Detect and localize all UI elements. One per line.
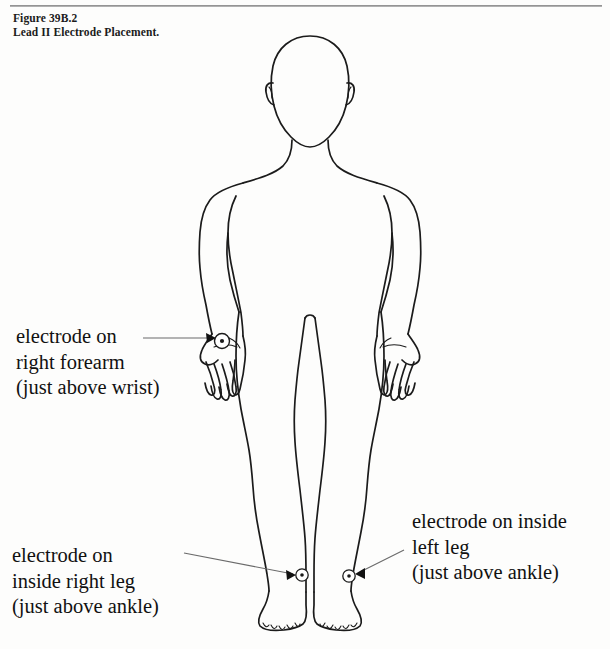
toe-right-5 bbox=[320, 623, 325, 627]
annotation-left-leg-line1: electrode on inside bbox=[412, 509, 567, 535]
leg-right-outer bbox=[351, 312, 384, 591]
toe-right-3 bbox=[335, 626, 341, 630]
hand-right-crease-1 bbox=[383, 345, 406, 347]
toe-left-1 bbox=[263, 623, 269, 627]
annotation-left-leg: electrode on inside left leg (just above… bbox=[412, 509, 567, 586]
head-outline bbox=[271, 36, 349, 147]
leg-left-inner bbox=[294, 318, 306, 592]
annotation-right-leg-line3: (just above ankle) bbox=[12, 594, 159, 620]
right-forearm-electrode bbox=[215, 334, 230, 349]
arm-right-inner bbox=[377, 196, 392, 336]
leg-right-inner bbox=[314, 318, 326, 592]
toe-left-2 bbox=[271, 625, 277, 629]
foot-right bbox=[314, 591, 362, 630]
arm-left-outer bbox=[199, 183, 243, 334]
toe-left-5 bbox=[295, 623, 300, 627]
arm-left-inner bbox=[228, 196, 243, 336]
toe-right-2 bbox=[343, 625, 349, 629]
arm-right-outer bbox=[377, 183, 421, 334]
annotation-right-forearm-line3: (just above wrist) bbox=[16, 375, 159, 401]
toe-right-1 bbox=[351, 623, 357, 627]
left-leg-electrode bbox=[343, 570, 355, 582]
toe-left-3 bbox=[279, 626, 285, 630]
annotation-right-leg-line2: inside right leg bbox=[12, 569, 159, 595]
body-outline bbox=[199, 36, 421, 630]
annotation-right-forearm-line2: right forearm bbox=[16, 350, 159, 376]
figure-page: Figure 39B.2 Lead II Electrode Placement… bbox=[0, 0, 610, 649]
leader-line-left-leg bbox=[360, 550, 404, 572]
hand-right-edge bbox=[375, 336, 388, 395]
finger-left-1 bbox=[205, 362, 215, 395]
annotation-right-forearm-line1: electrode on bbox=[16, 324, 159, 350]
leader-arrowheads bbox=[206, 333, 365, 580]
finger-right-3 bbox=[391, 364, 401, 400]
annotation-right-forearm: electrode on right forearm (just above w… bbox=[16, 324, 159, 401]
arrowhead-left-leg bbox=[355, 568, 365, 579]
toe-left-4 bbox=[287, 625, 293, 629]
annotation-right-leg-line1: electrode on bbox=[12, 543, 159, 569]
neck-left bbox=[243, 140, 292, 183]
toe-right-4 bbox=[327, 625, 333, 629]
annotation-left-leg-line3: (just above ankle) bbox=[412, 560, 567, 586]
annotation-right-leg: electrode on inside right leg (just abov… bbox=[12, 543, 159, 620]
leg-left-outer bbox=[236, 312, 269, 591]
finger-right-1 bbox=[405, 362, 415, 395]
foot-left bbox=[259, 591, 307, 630]
leader-lines bbox=[143, 338, 404, 574]
hand-left-edge bbox=[232, 336, 245, 395]
finger-left-3 bbox=[219, 364, 229, 400]
hand-right-thumb bbox=[402, 334, 420, 365]
neck-right bbox=[328, 140, 377, 183]
leader-line-right-leg bbox=[184, 553, 293, 574]
right-leg-electrode bbox=[296, 569, 308, 581]
annotation-left-leg-line2: left leg bbox=[412, 535, 567, 561]
arrowhead-right-leg bbox=[286, 570, 296, 580]
crotch bbox=[305, 315, 315, 318]
